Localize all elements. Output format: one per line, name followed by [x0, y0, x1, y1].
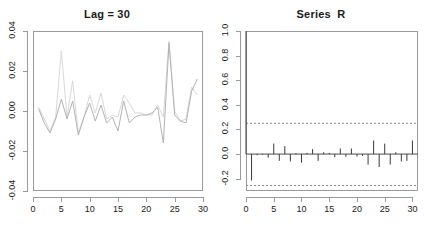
right-x-tick — [274, 197, 275, 202]
right-x-tick-label: 20 — [343, 204, 371, 214]
left-y-tick — [23, 111, 28, 112]
right-y-tick — [236, 56, 241, 57]
left-y-tick-label: -0.04 — [1, 185, 23, 195]
left-y-tick-label: 0.02 — [1, 65, 23, 75]
panel-left-title: Lag = 30 — [0, 8, 214, 20]
left-x-tick — [203, 197, 204, 202]
left-y-tick — [23, 151, 28, 152]
right-y-tick-label: 0.2 — [214, 123, 236, 133]
right-y-tick-label: 0.8 — [214, 50, 236, 60]
line-series-group — [33, 31, 203, 191]
left-y-tick-label: 0.04 — [1, 25, 23, 35]
right-y-tick — [236, 80, 241, 81]
right-y-tick-label: -0.2 — [214, 173, 236, 183]
left-x-tick — [146, 197, 147, 202]
acf-spikes-group — [246, 31, 418, 191]
plot-area-left — [33, 31, 203, 191]
left-x-tick — [61, 197, 62, 202]
left-y-tick — [23, 31, 28, 32]
right-y-tick-label: 0.6 — [214, 74, 236, 84]
right-x-tick — [246, 197, 247, 202]
right-y-tick — [236, 31, 241, 32]
right-x-tick-label: 25 — [371, 204, 399, 214]
left-x-tick-label: 0 — [19, 204, 47, 214]
right-y-tick — [236, 129, 241, 130]
right-y-tick — [236, 179, 241, 180]
left-y-tick — [23, 71, 28, 72]
right-x-tick — [357, 197, 358, 202]
right-x-tick — [385, 197, 386, 202]
panel-left: Lag = 30 -0.04-0.020.000.020.04051015202… — [0, 0, 214, 233]
left-x-tick-label: 20 — [132, 204, 160, 214]
right-x-tick-label: 5 — [260, 204, 288, 214]
panel-right-title: Series R — [214, 8, 428, 20]
figure-canvas: Lag = 30 -0.04-0.020.000.020.04051015202… — [0, 0, 428, 233]
right-y-tick — [236, 154, 241, 155]
left-x-tick — [175, 197, 176, 202]
left-x-tick-label: 30 — [189, 204, 217, 214]
left-x-tick — [90, 197, 91, 202]
left-y-tick-label: 0.00 — [1, 105, 23, 115]
right-y-tick — [236, 105, 241, 106]
right-y-tick-label: 0.0 — [214, 148, 236, 158]
right-x-tick-label: 30 — [398, 204, 426, 214]
right-y-tick-label: 0.4 — [214, 99, 236, 109]
right-x-tick-label: 10 — [287, 204, 315, 214]
plot-area-right — [246, 31, 418, 191]
left-y-tick — [23, 191, 28, 192]
right-x-tick — [329, 197, 330, 202]
right-x-tick-label: 0 — [232, 204, 260, 214]
panel-right: Series R -0.20.00.20.40.60.81.0051015202… — [214, 0, 428, 233]
right-x-tick — [301, 197, 302, 202]
left-y-tick-label: -0.02 — [1, 145, 23, 155]
left-x-tick-label: 25 — [161, 204, 189, 214]
left-x-tick-label: 15 — [104, 204, 132, 214]
left-x-tick — [118, 197, 119, 202]
right-x-tick-label: 15 — [315, 204, 343, 214]
line-series-light — [39, 41, 198, 133]
right-y-tick-label: 1.0 — [214, 25, 236, 35]
right-x-tick — [412, 197, 413, 202]
left-x-tick — [33, 197, 34, 202]
left-x-tick-label: 10 — [76, 204, 104, 214]
left-x-tick-label: 5 — [47, 204, 75, 214]
